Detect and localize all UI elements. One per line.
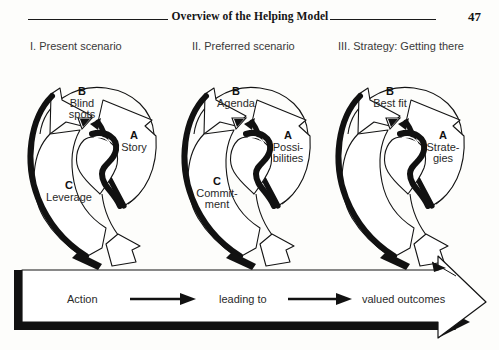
panel-1-stage-B: B Agenda	[212, 86, 260, 109]
panel-0-stage-A: A Story	[110, 130, 158, 153]
panel-0-stage-B: B Blind spots	[58, 86, 106, 121]
band-label-valued-outcomes: valued outcomes	[362, 293, 445, 305]
band-label-action: Action	[67, 293, 98, 305]
panel-0-stage-C: C Leverage	[38, 180, 100, 203]
page-canvas: Overview of the Helping Model 47 I. Pres…	[0, 0, 499, 350]
panel-strategy	[338, 87, 464, 270]
panel-1-stage-A: A Possi- bilities	[264, 130, 312, 165]
panel-1-stage-C: C Commit- ment	[186, 176, 248, 211]
panel-2-stage-A: A Strate- gies	[418, 130, 468, 165]
panel-2-stage-B: B Best fit	[364, 86, 416, 109]
band-label-leading-to: leading to	[219, 293, 267, 305]
